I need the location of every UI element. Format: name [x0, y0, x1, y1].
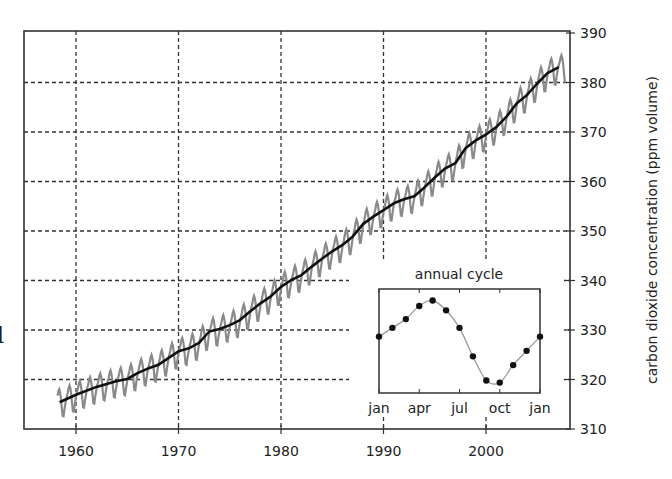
x-tick-label: 1960 [58, 443, 94, 459]
y-tick-label: 340 [580, 273, 607, 289]
inset-data-point [470, 353, 476, 359]
x-tick-label: 1980 [263, 443, 299, 459]
y-tick-label: 330 [580, 322, 607, 338]
inset-tick-label: jul [450, 400, 468, 416]
x-tick-label: 2000 [468, 443, 504, 459]
y-tick-label: 380 [580, 75, 607, 91]
inset-data-point [389, 325, 395, 331]
co2-chart: l 19601970198019902000 31032033034035036… [0, 0, 672, 479]
inset-data-point [403, 316, 409, 322]
cropped-left-text: l [0, 323, 4, 348]
x-tick-label: 1990 [366, 443, 402, 459]
inset-data-point [429, 297, 435, 303]
inset-data-point [523, 348, 529, 354]
inset-tick-label: jan [367, 400, 389, 416]
inset-data-point [376, 333, 382, 339]
y-axis-title: carbon dioxide concentration (ppm volume… [644, 76, 660, 384]
inset-title: annual cycle [415, 266, 503, 282]
inset-tick-label: jan [528, 400, 550, 416]
y-tick-label: 310 [580, 421, 607, 437]
annual-cycle-inset: annual cycle janaprjuloctjan [367, 266, 550, 416]
inset-tick-label: oct [489, 400, 511, 416]
y-tick-label: 390 [580, 25, 607, 41]
inset-data-point [456, 325, 462, 331]
inset-data-point [510, 362, 516, 368]
x-tick-label: 1970 [161, 443, 197, 459]
inset-data-point [443, 307, 449, 313]
inset-data-point [497, 379, 503, 385]
inset-data-point [537, 333, 543, 339]
inset-data-point [483, 377, 489, 383]
y-tick-label: 350 [580, 223, 607, 239]
y-tick-label: 360 [580, 174, 607, 190]
y-axis-ticks: 310320330340350360370380390 [566, 25, 607, 437]
y-tick-label: 370 [580, 124, 607, 140]
inset-tick-label: apr [408, 400, 431, 416]
x-axis-ticks: 19601970198019902000 [58, 425, 504, 459]
y-tick-label: 320 [580, 372, 607, 388]
inset-data-point [416, 303, 422, 309]
